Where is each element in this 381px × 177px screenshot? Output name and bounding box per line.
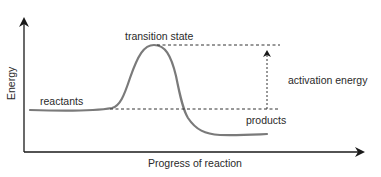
products-label: products xyxy=(246,114,286,126)
transition-state-label: transition state xyxy=(125,30,193,42)
x-axis-label: Progress of reaction xyxy=(148,157,242,169)
energy-curve xyxy=(30,45,267,135)
reactants-label: reactants xyxy=(40,95,83,107)
y-axis-label: Energy xyxy=(5,66,17,100)
energy-diagram: transition state reactants products acti… xyxy=(0,0,381,177)
activation-energy-label: activation energy xyxy=(288,74,368,86)
